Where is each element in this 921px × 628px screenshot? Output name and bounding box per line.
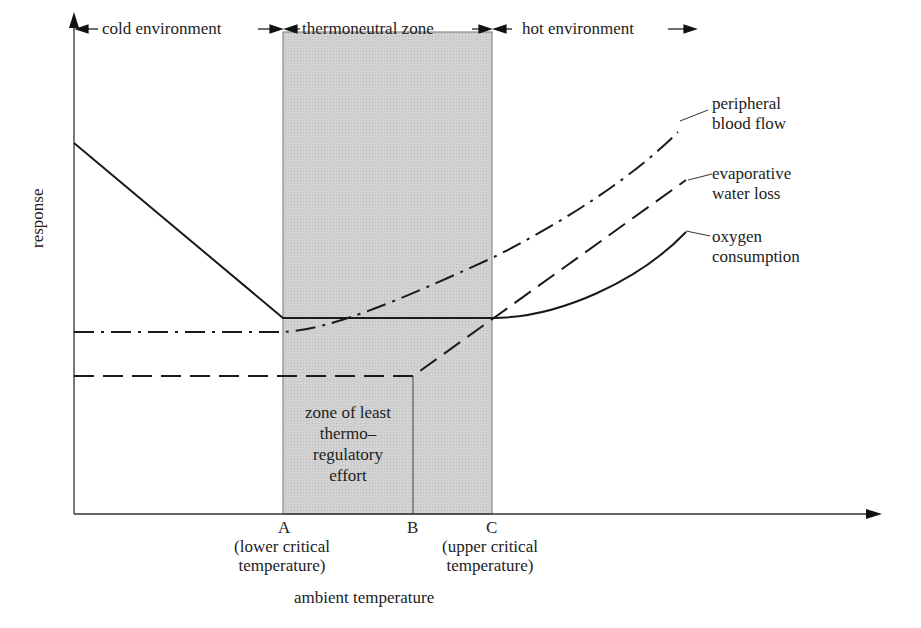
- c-note-line1: (upper critical: [428, 537, 552, 556]
- oc-leader: [686, 231, 710, 236]
- y-axis-label: response: [28, 189, 48, 248]
- pbf-leader: [680, 110, 708, 121]
- pbf-label-line2: blood flow: [712, 114, 786, 134]
- a-note-line2: temperature): [220, 556, 344, 575]
- x-axis-label: ambient temperature: [294, 588, 434, 608]
- y-axis-arrow-icon: [69, 12, 79, 28]
- a-note: (lower critical temperature): [220, 537, 344, 575]
- ewl-leader: [688, 174, 712, 180]
- oc-label-line1: oxygen: [712, 227, 762, 247]
- zone-label-line4: effort: [283, 465, 413, 486]
- oc-label-line2: consumption: [712, 247, 800, 267]
- x-axis-arrow-icon: [866, 509, 882, 519]
- thermoneutral-zone-label: thermoneutral zone: [302, 19, 434, 39]
- marker-a: A: [278, 518, 290, 538]
- zone-least-effort-label: zone of least thermo– regulatory effort: [283, 402, 413, 486]
- zone-label-line3: regulatory: [283, 444, 413, 465]
- zone-label-line2: thermo–: [283, 423, 413, 444]
- c-note: (upper critical temperature): [428, 537, 552, 575]
- cold-environment-label: cold environment: [102, 19, 221, 39]
- pbf-label-line1: peripheral: [712, 94, 781, 114]
- chart-canvas: [0, 0, 921, 628]
- ewl-label-line2: water loss: [712, 184, 780, 204]
- ewl-label-line1: evaporative: [712, 164, 791, 184]
- hot-environment-label: hot environment: [522, 19, 634, 39]
- c-note-line2: temperature): [428, 556, 552, 575]
- marker-b: B: [407, 518, 418, 538]
- marker-c: C: [486, 518, 497, 538]
- zone-label-line1: zone of least: [283, 402, 413, 423]
- a-note-line1: (lower critical: [220, 537, 344, 556]
